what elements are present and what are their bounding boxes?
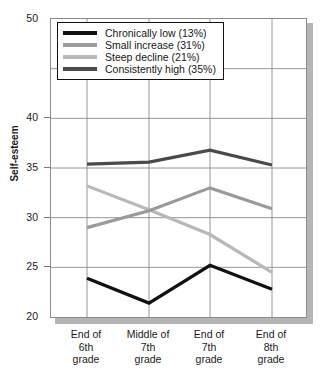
x-tick-label-line: grade — [113, 353, 183, 366]
legend-item-chronically-low[interactable]: Chronically low (13%) — [63, 27, 216, 39]
x-tick-label-line: Middle of — [113, 328, 183, 341]
legend-item-small-increase[interactable]: Small increase (31%) — [63, 39, 216, 51]
legend-swatch-icon — [63, 43, 97, 47]
x-tick-label-2: End of7thgrade — [174, 328, 244, 366]
x-tick-label-line: grade — [51, 353, 121, 366]
self-esteem-line-chart: Self-esteem 202530354050 Chronically low… — [0, 0, 325, 378]
legend-item-label: Steep decline (21%) — [105, 51, 200, 63]
y-tick-label-20: 20 — [14, 311, 38, 321]
y-tick-label-40: 40 — [14, 112, 38, 122]
legend-item-label: Chronically low (13%) — [105, 27, 207, 39]
x-tick-label-line: grade — [236, 353, 306, 366]
y-tick-label-35: 35 — [14, 162, 38, 172]
y-tick-mark-35 — [44, 167, 50, 168]
x-tick-label-1: Middle of7thgrade — [113, 328, 183, 366]
series-line-chronically-low — [87, 265, 272, 303]
y-tick-mark-30 — [44, 217, 50, 218]
chart-legend: Chronically low (13%)Small increase (31%… — [57, 22, 224, 80]
series-line-consistently-high — [87, 150, 272, 165]
legend-swatch-icon — [63, 55, 97, 59]
y-tick-label-30: 30 — [14, 212, 38, 222]
y-tick-label-50: 50 — [14, 13, 38, 23]
x-tick-label-line: End of — [236, 328, 306, 341]
x-tick-label-3: End of8thgrade — [236, 328, 306, 366]
x-tick-label-line: End of — [51, 328, 121, 341]
y-axis-tick-labels: 202530354050 — [14, 0, 38, 378]
legend-swatch-icon — [63, 67, 97, 71]
y-tick-mark-40 — [44, 117, 50, 118]
x-tick-label-line: 8th — [236, 341, 306, 354]
y-tick-mark-25 — [44, 266, 50, 267]
x-tick-label-line: 7th — [113, 341, 183, 354]
legend-item-steep-decline[interactable]: Steep decline (21%) — [63, 51, 216, 63]
x-tick-label-0: End of6thgrade — [51, 328, 121, 366]
legend-item-label: Small increase (31%) — [105, 39, 205, 51]
x-tick-label-line: 6th — [51, 341, 121, 354]
x-axis-tick-labels: End of6thgradeMiddle of7thgradeEnd of7th… — [0, 328, 325, 376]
x-tick-label-line: End of — [174, 328, 244, 341]
x-tick-label-line: grade — [174, 353, 244, 366]
legend-swatch-icon — [63, 31, 97, 35]
y-tick-label-25: 25 — [14, 261, 38, 271]
legend-item-label: Consistently high (35%) — [105, 63, 216, 75]
x-tick-label-line: 7th — [174, 341, 244, 354]
legend-item-consistently-high[interactable]: Consistently high (35%) — [63, 63, 216, 75]
